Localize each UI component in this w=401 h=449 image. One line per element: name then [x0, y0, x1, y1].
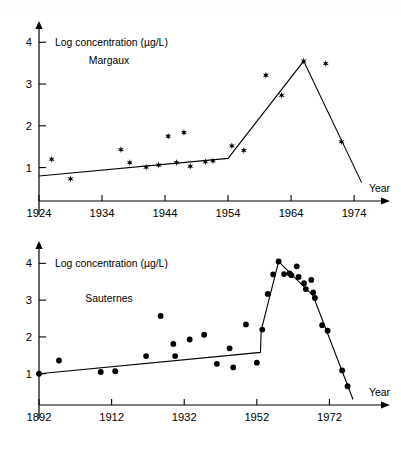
series-name-label: Sauternes — [85, 293, 132, 304]
data-point-marker — [308, 277, 314, 283]
chart-panel-sauternes: 189219121932195219721234Log concentratio… — [0, 230, 401, 449]
data-point-marker — [259, 327, 265, 333]
x-tick-label: 1934 — [90, 207, 115, 219]
data-point-marker — [210, 157, 216, 164]
data-point-marker — [339, 368, 345, 374]
x-axis-arrow-icon — [381, 401, 390, 408]
data-point-marker — [98, 369, 104, 375]
data-point-marker — [265, 291, 271, 297]
y-tick-label: 2 — [26, 331, 32, 343]
data-point-marker — [325, 328, 331, 334]
data-point-marker — [112, 368, 118, 374]
x-axis-label: Year — [369, 387, 391, 398]
data-point-marker — [241, 147, 247, 154]
y-tick-label: 3 — [26, 78, 32, 90]
series-name-label: Margaux — [89, 55, 130, 66]
data-point-marker — [143, 164, 149, 171]
data-point-marker — [312, 295, 318, 301]
data-point-marker — [243, 322, 249, 328]
x-axis-arrow-icon — [381, 197, 390, 204]
data-point-marker — [288, 272, 294, 278]
y-axis-arrow-icon — [35, 241, 42, 249]
x-tick-label: 1954 — [216, 207, 241, 219]
data-point-marker — [172, 353, 178, 359]
data-point-marker — [187, 163, 193, 170]
data-point-marker — [158, 313, 164, 319]
data-point-marker — [165, 133, 171, 140]
data-point-marker — [276, 259, 282, 265]
data-point-marker — [229, 142, 235, 149]
x-tick-label: 1912 — [99, 411, 124, 423]
figure-container: 1924193419441954196419741234Log concentr… — [0, 0, 401, 449]
data-point-marker — [181, 129, 187, 136]
data-point-marker — [127, 159, 133, 166]
data-point-marker — [118, 146, 124, 153]
data-point-marker — [202, 158, 208, 165]
y-axis-arrow-icon — [35, 21, 42, 29]
y-tick-label: 1 — [26, 162, 32, 174]
data-point-marker — [214, 361, 220, 367]
sauternes-plot: 189219121932195219721234Log concentratio… — [0, 230, 401, 449]
x-tick-label: 1944 — [153, 207, 178, 219]
x-tick-label: 1924 — [27, 207, 52, 219]
data-point-marker — [230, 365, 236, 371]
y-tick-label: 2 — [26, 120, 32, 132]
data-point-marker — [301, 280, 307, 286]
data-point-marker — [323, 60, 329, 67]
x-tick-label: 1964 — [279, 207, 304, 219]
data-point-marker — [303, 286, 309, 292]
data-point-marker — [170, 341, 176, 347]
data-point-marker — [227, 345, 233, 351]
data-point-marker — [187, 337, 193, 343]
x-axis-label: Year — [369, 183, 391, 194]
data-point-marker — [254, 360, 260, 366]
y-axis-label: Log concentration (µg/L) — [55, 258, 168, 269]
y-tick-label: 1 — [26, 368, 32, 380]
top-crop-artifact — [0, 0, 401, 11]
data-point-marker — [294, 263, 300, 269]
data-point-marker — [143, 353, 149, 359]
x-tick-label: 1974 — [342, 207, 367, 219]
data-point-marker — [270, 271, 276, 277]
data-point-marker — [310, 290, 316, 296]
data-point-marker — [319, 322, 325, 328]
y-tick-label: 4 — [26, 257, 32, 269]
data-point-marker — [345, 383, 351, 389]
y-axis-label: Log concentration (µg/L) — [55, 37, 168, 48]
margaux-plot: 1924193419441954196419741234Log concentr… — [0, 11, 401, 230]
x-tick-label: 1972 — [317, 411, 342, 423]
data-point-marker — [56, 358, 62, 364]
data-point-marker — [36, 371, 42, 377]
data-point-marker — [49, 156, 55, 163]
data-point-marker — [263, 72, 269, 79]
data-point-marker — [296, 274, 302, 280]
data-point-marker — [67, 175, 73, 182]
chart-panel-margaux: 1924193419441954196419741234Log concentr… — [0, 11, 401, 230]
x-tick-label: 1892 — [27, 411, 52, 423]
data-point-marker — [201, 332, 207, 338]
x-tick-label: 1952 — [244, 411, 269, 423]
y-tick-label: 3 — [26, 294, 32, 306]
x-tick-label: 1932 — [172, 411, 197, 423]
y-tick-label: 4 — [26, 36, 32, 48]
data-point-marker — [281, 271, 287, 277]
fit-line — [39, 61, 362, 183]
